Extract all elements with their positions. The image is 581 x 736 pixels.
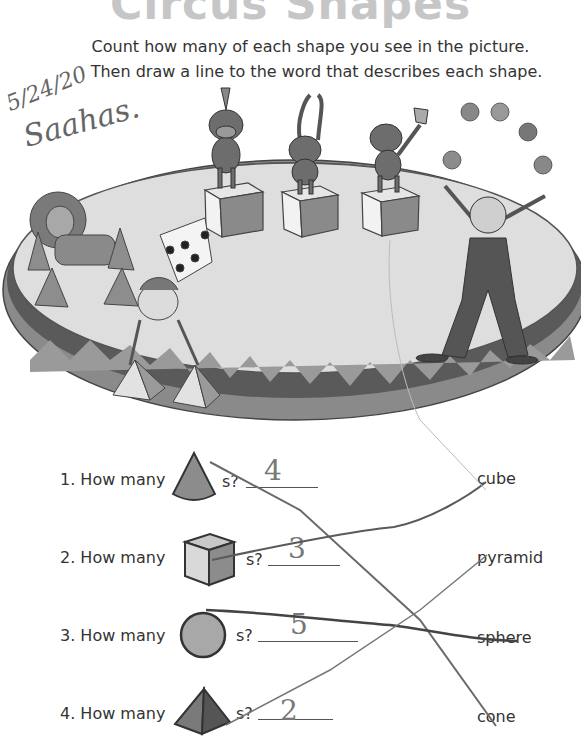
- juggling-balls: [443, 103, 552, 174]
- instruction-line-1: Count how many of each shape you see in …: [20, 37, 581, 56]
- line-cube-to-cube: [212, 482, 486, 560]
- cube-box-1: [205, 183, 263, 237]
- answer-1[interactable]: 4: [264, 454, 282, 487]
- question-1-suffix: s?: [222, 472, 239, 491]
- line-cone-to-cone: [210, 462, 496, 726]
- question-3-label: 3. How many: [60, 626, 165, 645]
- word-sphere[interactable]: sphere: [477, 628, 532, 647]
- question-3-suffix: s?: [236, 626, 253, 645]
- word-cube[interactable]: cube: [477, 469, 516, 488]
- cone-icon: [170, 450, 218, 506]
- answer-blank-2[interactable]: [268, 565, 340, 566]
- question-4-suffix: s?: [236, 704, 253, 723]
- answer-blank-1[interactable]: [246, 487, 318, 488]
- worksheet-title: Circus Shapes: [0, 0, 581, 29]
- question-2-suffix: s?: [246, 550, 263, 569]
- question-1-label: 1. How many: [60, 470, 165, 489]
- instruction-line-2: Then draw a line to the word that descri…: [26, 62, 581, 81]
- answer-blank-3[interactable]: [258, 641, 358, 642]
- line-pyramid-to-pyramid: [226, 555, 487, 725]
- word-cone[interactable]: cone: [477, 707, 516, 726]
- cube-icon: [182, 532, 238, 588]
- question-4-label: 4. How many: [60, 704, 165, 723]
- sphere-icon: [178, 610, 228, 660]
- question-2-label: 2. How many: [60, 548, 165, 567]
- circus-scene-illustration: [0, 80, 581, 440]
- answer-4[interactable]: 2: [280, 694, 298, 727]
- answer-2[interactable]: 3: [288, 532, 306, 565]
- answer-3[interactable]: 5: [290, 608, 308, 641]
- cube-box-3: [362, 187, 419, 236]
- pyramid-icon: [172, 686, 234, 736]
- word-pyramid[interactable]: pyramid: [477, 548, 543, 567]
